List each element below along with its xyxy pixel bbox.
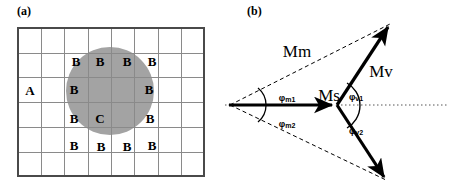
cell-label: B bbox=[70, 112, 79, 125]
figure-container: (a) bbox=[0, 0, 450, 193]
cell-label: B bbox=[70, 83, 79, 96]
cell-label: B bbox=[96, 55, 105, 68]
cell-label: B bbox=[146, 112, 155, 125]
panel-b: (b) bbox=[225, 0, 450, 193]
cell-label-c: C bbox=[95, 112, 104, 125]
cell-label: B bbox=[72, 55, 81, 68]
angle-sub: m2 bbox=[285, 122, 295, 129]
angle-label-phi-m1: φm1 bbox=[279, 93, 296, 103]
angle-label-phi-v2: φv2 bbox=[349, 126, 363, 136]
panel-a: (a) bbox=[0, 0, 225, 193]
cell-label-a: A bbox=[25, 84, 34, 97]
angle-sub: m1 bbox=[285, 96, 295, 103]
vector-label-mv: Mv bbox=[369, 62, 393, 82]
cell-label: B bbox=[123, 55, 132, 68]
angle-sub: v1 bbox=[355, 95, 363, 102]
cell-label: B bbox=[123, 140, 132, 153]
vector-mm-dashed bbox=[230, 24, 390, 105]
cell-label: B bbox=[70, 139, 79, 152]
angle-label-phi-m2: φm2 bbox=[279, 119, 296, 129]
angle-label-phi-v1: φv1 bbox=[349, 92, 363, 102]
vector-label-ms: Ms bbox=[318, 86, 340, 106]
vector-mv2 bbox=[337, 105, 384, 177]
vector-label-mm: Mm bbox=[283, 42, 311, 62]
angle-sub: v2 bbox=[355, 129, 363, 136]
cell-label: B bbox=[145, 83, 154, 96]
cell-label: B bbox=[148, 55, 157, 68]
cell-label: B bbox=[97, 140, 106, 153]
cell-label: B bbox=[148, 139, 157, 152]
